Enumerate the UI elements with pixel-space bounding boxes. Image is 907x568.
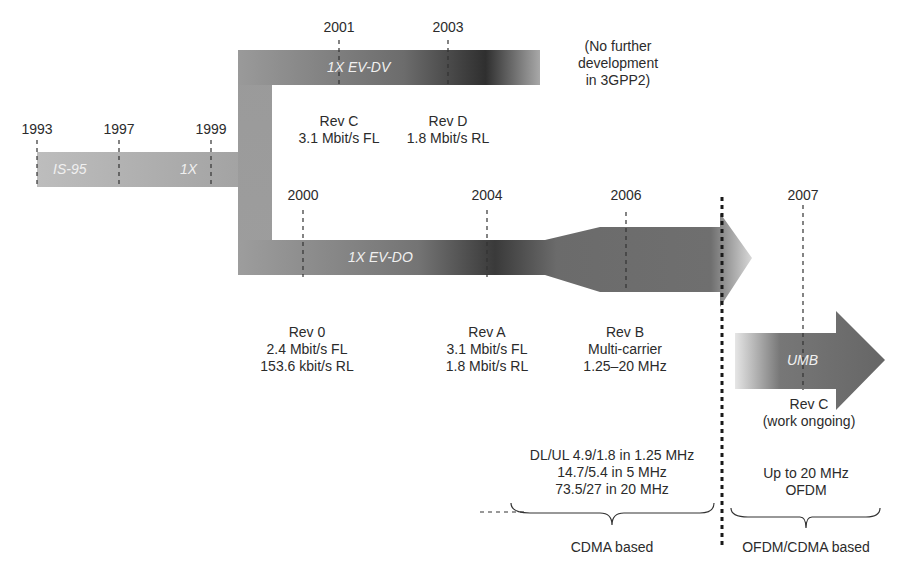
evdo-arrow (238, 213, 752, 307)
ofdm-note: Up to 20 MHz OFDM (763, 465, 849, 499)
year-2004: 2004 (471, 187, 502, 204)
rev-detail: 1.8 Mbit/s RL (407, 130, 489, 147)
year-2001: 2001 (323, 19, 354, 36)
cdma-rates-line3: 73.5/27 in 20 MHz (530, 481, 694, 498)
evdv-note-line3: in 3GPP2) (578, 72, 658, 89)
umb-rev-c: Rev C (work ongoing) (763, 396, 856, 430)
evdv-note-line1: (No further (578, 38, 658, 55)
rev-detail: 3.1 Mbit/s FL (299, 130, 380, 147)
year-2006: 2006 (610, 187, 641, 204)
rev-line1: 3.1 Mbit/s FL (446, 341, 528, 358)
is95-label: IS-95 (53, 161, 86, 177)
evdo-label: 1X EV-DO (348, 249, 413, 265)
year-1997: 1997 (103, 121, 134, 138)
rev-line1: 2.4 Mbit/s FL (260, 341, 353, 358)
cdma-rates-line2: 14.7/5.4 in 5 MHz (530, 464, 694, 481)
year-2003: 2003 (432, 19, 463, 36)
rev-line1: Multi-carrier (583, 341, 666, 358)
evdv-rev-c: Rev C 3.1 Mbit/s FL (299, 113, 380, 147)
cdma-rates: DL/UL 4.9/1.8 in 1.25 MHz 14.7/5.4 in 5 … (530, 447, 694, 498)
cdma-rates-line1: DL/UL 4.9/1.8 in 1.25 MHz (530, 447, 694, 464)
rev-line2: 1.25–20 MHz (583, 358, 666, 375)
rev-title: Rev A (446, 324, 528, 341)
rev-line2: 153.6 kbit/s RL (260, 358, 353, 375)
evdo-rev-b: Rev B Multi-carrier 1.25–20 MHz (583, 324, 666, 375)
ofdm-note-line1: Up to 20 MHz (763, 465, 849, 482)
group-cdma-label: CDMA based (571, 539, 653, 556)
ofdm-note-line2: OFDM (763, 482, 849, 499)
cdma-brace (511, 503, 714, 525)
evdv-label: 1X EV-DV (327, 59, 390, 75)
evdv-rev-d: Rev D 1.8 Mbit/s RL (407, 113, 489, 147)
evdv-note-line2: development (578, 55, 658, 72)
rev-title: Rev C (299, 113, 380, 130)
evdv-note: (No further development in 3GPP2) (578, 38, 658, 89)
evdo-rev-0: Rev 0 2.4 Mbit/s FL 153.6 kbit/s RL (260, 324, 353, 375)
year-2007: 2007 (787, 187, 818, 204)
rev-title: Rev 0 (260, 324, 353, 341)
evdo-rev-a: Rev A 3.1 Mbit/s FL 1.8 Mbit/s RL (446, 324, 528, 375)
onex-label: 1X (180, 161, 197, 177)
rev-title: Rev C (763, 396, 856, 413)
group-ofdm-label: OFDM/CDMA based (742, 539, 870, 556)
rev-detail: (work ongoing) (763, 413, 856, 430)
ofdm-brace (731, 508, 880, 528)
year-1999: 1999 (195, 121, 226, 138)
rev-line2: 1.8 Mbit/s RL (446, 358, 528, 375)
umb-label: UMB (787, 352, 818, 368)
year-2000: 2000 (287, 187, 318, 204)
rev-title: Rev D (407, 113, 489, 130)
rev-title: Rev B (583, 324, 666, 341)
year-1993: 1993 (21, 121, 52, 138)
